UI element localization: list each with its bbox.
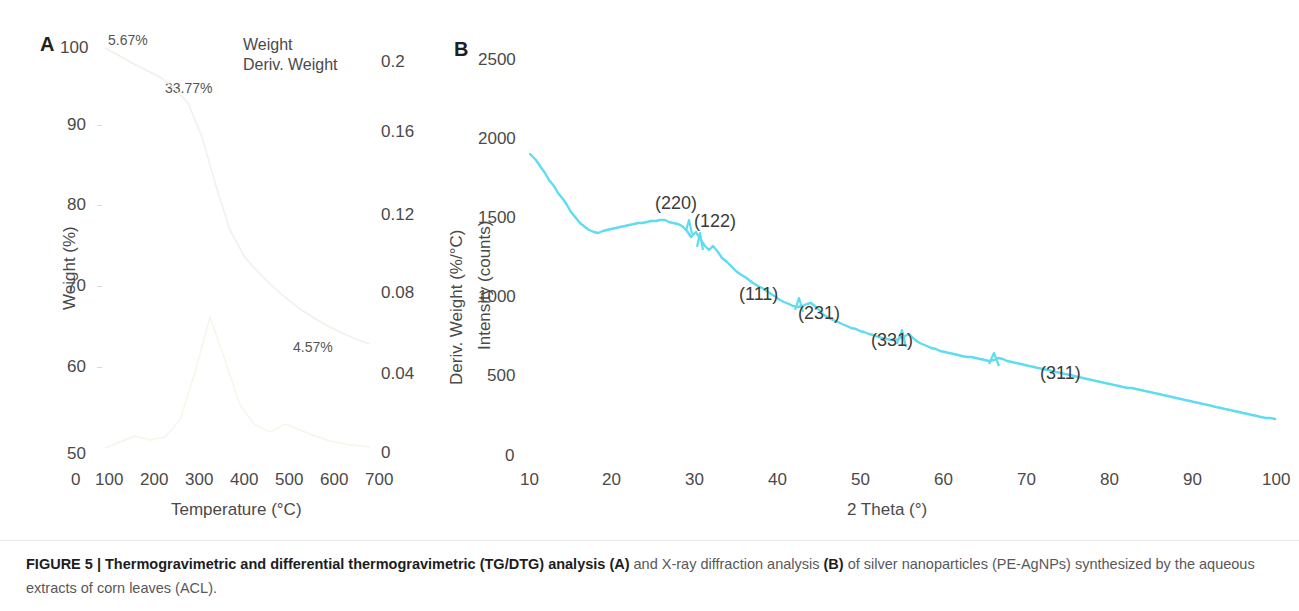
panel-b: B 2500 2000 1500 1000 500 0 Intensity (c…	[450, 0, 1299, 540]
panel-b-x-tick-30: 30	[685, 470, 704, 490]
panel-a-x-tick-0: 0	[71, 470, 80, 490]
peak-label-220: (220)	[655, 193, 697, 214]
panel-a-y2-tick-0: 0	[381, 443, 390, 463]
panel-b-x-tick-20: 20	[602, 470, 621, 490]
panel-a-x-tick-400: 400	[230, 470, 258, 490]
caption-mid: and X-ray diffraction analysis	[630, 556, 824, 572]
figure-caption: FIGURE 5 | Thermogravimetric and differe…	[26, 552, 1282, 600]
panel-a-y2-tick-016: 0.16	[381, 122, 414, 142]
xrd-diffractogram-trace	[450, 0, 1299, 540]
panel-a-x-axis-title: Temperature (°C)	[171, 500, 302, 520]
peak-label-122: (122)	[694, 211, 736, 232]
caption-bold-lead: FIGURE 5 | Thermogravimetric and differe…	[26, 556, 630, 572]
panel-a-y2-tick-008: 0.08	[381, 283, 414, 303]
panel-a-x-tick-300: 300	[185, 470, 213, 490]
panel-b-x-tick-50: 50	[851, 470, 870, 490]
panel-a: A 100 90 80 70 60 50 Weight (%) 5.67% 33…	[0, 0, 450, 540]
panel-b-x-tick-10: 10	[520, 470, 539, 490]
caption-bold-b: (B)	[824, 556, 844, 572]
panel-b-x-tick-60: 60	[934, 470, 953, 490]
caption-divider	[0, 540, 1299, 541]
panel-b-x-tick-40: 40	[768, 470, 787, 490]
figure-image: A 100 90 80 70 60 50 Weight (%) 5.67% 33…	[0, 0, 1299, 540]
panel-b-x-axis-title: 2 Theta (°)	[847, 500, 927, 520]
panel-a-y2-tick-02: 0.2	[381, 52, 405, 72]
panel-b-x-tick-80: 80	[1100, 470, 1119, 490]
panel-a-x-tick-700: 700	[365, 470, 393, 490]
panel-a-x-tick-200: 200	[140, 470, 168, 490]
panel-a-y2-tick-004: 0.04	[381, 364, 414, 384]
peak-label-331: (331)	[871, 330, 913, 351]
panel-a-x-tick-600: 600	[320, 470, 348, 490]
panel-a-x-tick-500: 500	[275, 470, 303, 490]
peak-label-111: (111)	[739, 284, 778, 305]
peak-label-231: (231)	[798, 303, 840, 324]
panel-b-x-tick-70: 70	[1017, 470, 1036, 490]
panel-a-y2-tick-012: 0.12	[381, 205, 414, 225]
peak-label-311: (311)	[1040, 363, 1081, 384]
panel-b-x-tick-90: 90	[1183, 470, 1202, 490]
panel-b-x-tick-100: 100	[1262, 470, 1290, 490]
panel-a-x-tick-100: 100	[95, 470, 123, 490]
